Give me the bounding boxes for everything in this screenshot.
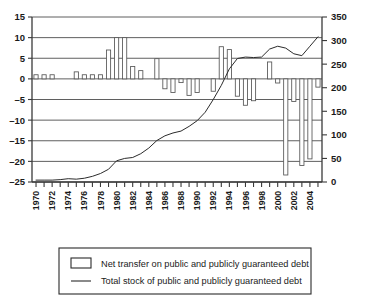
legend-label-bar: Net transfer on public and publicly guar… [101, 259, 309, 269]
dual-axis-chart: 151050–5–10–15–20–25 3503002502001501005… [0, 0, 369, 305]
x-tick-label: 1984 [144, 191, 154, 210]
bar [187, 79, 191, 96]
x-tick-label: 1974 [63, 191, 73, 210]
bar [316, 79, 320, 87]
right-tick-label: 250 [331, 59, 347, 70]
bar [163, 79, 167, 89]
bar [235, 79, 239, 96]
bar [300, 79, 304, 166]
bar [284, 79, 288, 175]
legend-border [59, 248, 311, 294]
left-tick-label: 10 [14, 32, 25, 43]
left-tick-label: –20 [9, 156, 25, 167]
bar [195, 79, 199, 93]
right-tick-label: 200 [331, 82, 347, 93]
bar [251, 79, 255, 101]
bar [42, 75, 46, 79]
right-tick-label: 150 [331, 106, 347, 117]
x-tick-label: 1992 [208, 191, 218, 210]
legend-swatch-bar [71, 258, 91, 268]
bar [219, 47, 223, 79]
x-tick-label: 2000 [273, 191, 283, 210]
bar [171, 79, 175, 93]
bar [292, 79, 296, 102]
x-tick-label: 1976 [79, 191, 89, 210]
left-tick-label: 15 [14, 11, 25, 22]
right-tick-label: 350 [331, 11, 347, 22]
x-tick-label: 2002 [289, 191, 299, 210]
bar [90, 75, 94, 79]
bar [106, 50, 110, 79]
bar [34, 75, 38, 79]
bar [131, 67, 135, 79]
chart-legend: Net transfer on public and publicly guar… [59, 248, 311, 294]
bar [155, 59, 159, 79]
x-tick-label: 1982 [128, 191, 138, 210]
bar [268, 62, 272, 79]
bar [50, 75, 54, 79]
bar [308, 79, 312, 159]
bar [114, 38, 118, 79]
left-tick-label: 5 [20, 53, 26, 64]
x-tick-label: 1972 [47, 191, 57, 210]
left-tick-label: –5 [14, 94, 25, 105]
right-tick-label: 300 [331, 35, 347, 46]
legend-label-line: Total stock of public and publicly guara… [101, 276, 302, 286]
right-tick-label: 50 [331, 153, 342, 164]
x-tick-label: 1998 [257, 191, 267, 210]
x-tick-label: 1990 [192, 191, 202, 210]
bar [82, 75, 86, 79]
bar [227, 50, 231, 79]
left-tick-label: –25 [9, 176, 26, 187]
left-tick-label: –15 [9, 135, 26, 146]
bar [179, 79, 183, 83]
x-tick-label: 1978 [96, 191, 106, 210]
left-tick-label: –10 [9, 115, 25, 126]
bar [139, 71, 143, 79]
bar [243, 79, 247, 105]
bar [74, 72, 78, 79]
x-tick-label: 1970 [31, 191, 41, 210]
bar [211, 79, 215, 91]
right-tick-label: 0 [331, 176, 336, 187]
x-tick-label: 1986 [160, 191, 170, 210]
bar [98, 75, 102, 79]
x-tick-label: 1988 [176, 191, 186, 210]
x-tick-label: 1994 [224, 191, 234, 210]
x-tick-label: 1996 [241, 191, 251, 210]
bar [276, 79, 280, 83]
chart-figure: 151050–5–10–15–20–25 3503002502001501005… [0, 0, 369, 305]
right-tick-label: 100 [331, 129, 347, 140]
x-tick-label: 1980 [112, 191, 122, 210]
bar [123, 38, 127, 79]
left-tick-label: 0 [20, 73, 25, 84]
x-tick-label: 2004 [305, 191, 315, 210]
